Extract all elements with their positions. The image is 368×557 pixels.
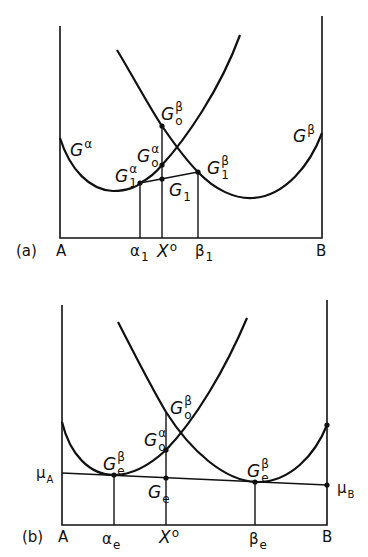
panel-a-g-alpha-label: Gα (70, 142, 92, 159)
panel-b-g-beta-at-b-point (324, 422, 329, 427)
panel-a-axis-b-label: B (316, 244, 326, 259)
panel-a (60, 16, 322, 238)
panel-b-x0-tick-label: Xo (159, 529, 179, 546)
panel-a-g1-label: G1 (169, 182, 191, 199)
panel-b-g0-alpha-label: Gαo (144, 432, 169, 450)
panel-b-beta-e-tick-label: βe (249, 532, 267, 547)
panel-b-mu-b-label: μB (337, 481, 354, 496)
panel-b-ge-right-label: Gβe (247, 463, 272, 481)
panel-b (62, 300, 330, 525)
panel-b-g-beta-curve (118, 322, 327, 482)
panel-a-beta1-tick-label: β1 (195, 244, 213, 259)
panel-a-axis-a-label: A (56, 244, 66, 259)
panel-b-ge-point (163, 475, 168, 480)
panel-a-g0-beta-label: Gβo (161, 106, 186, 124)
panel-a-g1-beta-label: Gβ1 (207, 160, 232, 178)
panel-a-g1-beta-point (195, 169, 200, 174)
panel-b-ge-label: Ge (148, 484, 170, 501)
panel-b-g-alpha-curve (62, 318, 247, 475)
panel-b-alpha-e-tick-label: αe (102, 532, 120, 547)
panel-a-g1-alpha-label: Gα1 (115, 168, 140, 186)
panel-a-caption: (a) (16, 244, 37, 259)
panel-a-g0-beta-point (159, 123, 164, 128)
panel-a-g0-alpha-label: Gαo (137, 148, 162, 166)
free-energy-composition-diagram (0, 0, 368, 557)
panel-b-ge-left-label: Gβe (103, 456, 128, 474)
panel-b-mu-b-point (324, 482, 329, 487)
panel-b-axis-a-label: A (58, 530, 68, 545)
panel-b-mu-a-label: μA (36, 466, 53, 481)
panel-a-g-beta-label: Gβ (293, 128, 315, 145)
panel-a-x0-tick-label: Xo (157, 243, 177, 260)
panel-b-g0-beta-label: Gβo (170, 400, 195, 418)
panel-b-caption: (b) (22, 530, 43, 545)
panel-a-alpha1-tick-label: α1 (130, 244, 149, 259)
panel-a-g1-point (159, 176, 164, 181)
panel-b-axis-b-label: B (322, 530, 332, 545)
